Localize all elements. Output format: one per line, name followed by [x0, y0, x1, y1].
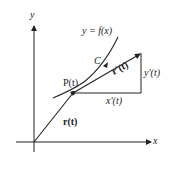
- tangent-vector-diagram: y x y = f(x) C P(t) r'(t) y'(t) x'(t) r(…: [0, 0, 170, 176]
- x-axis-label: x: [153, 136, 157, 146]
- y-axis-label: y: [30, 10, 34, 20]
- curve-equation-label: y = f(x): [82, 26, 112, 36]
- curve-name-label: C: [94, 56, 101, 66]
- tangent-vector: [73, 54, 140, 93]
- point-p: [71, 91, 75, 95]
- vertical-component-label: y'(t): [144, 68, 160, 78]
- position-vector-label: r(t): [63, 117, 77, 127]
- curve-c: [53, 37, 118, 98]
- point-label: P(t): [63, 78, 78, 88]
- horizontal-component-label: x'(t): [106, 96, 122, 106]
- curve-direction-arrow-icon: [103, 62, 108, 68]
